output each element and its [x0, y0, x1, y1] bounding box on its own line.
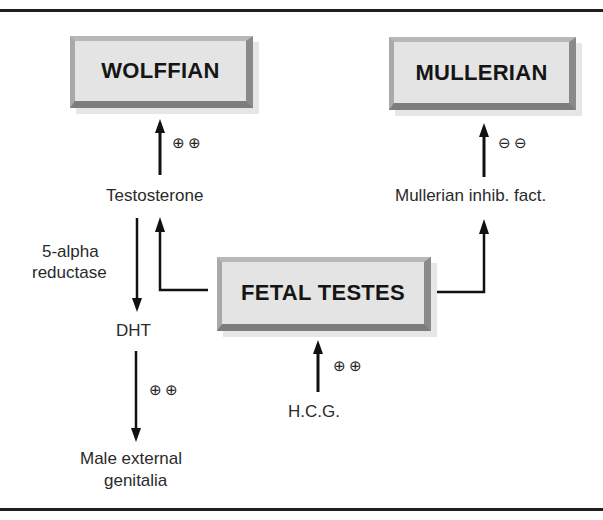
stimulate-sign-genitalia: ⊕⊕: [149, 381, 181, 399]
enzyme-label-line1: 5-alpha: [42, 241, 99, 262]
arrow-testes-to-mif: [437, 232, 484, 292]
arrowhead-mullerian: [479, 123, 489, 137]
arrowhead-genitalia: [131, 428, 141, 442]
genitalia-label-line1: Male external: [80, 448, 182, 469]
inhibit-sign-mullerian: ⊖⊖: [498, 134, 530, 152]
arrow-testes-to-testosterone: [160, 230, 208, 290]
stimulate-sign-testes: ⊕⊕: [333, 357, 365, 375]
testosterone-label: Testosterone: [106, 185, 203, 206]
enzyme-label-line2: reductase: [32, 262, 107, 283]
arrowhead-mif: [479, 219, 489, 234]
dht-label: DHT: [116, 320, 151, 341]
genitalia-label-line2: genitalia: [104, 470, 167, 491]
hcg-label: H.C.G.: [288, 401, 340, 422]
arrowhead-testes: [313, 340, 323, 354]
arrowhead-testosterone: [155, 217, 165, 232]
stimulate-sign-wolffian: ⊕⊕: [172, 134, 204, 152]
arrowhead-dht: [132, 298, 142, 312]
mullerian-factor-label: Mullerian inhib. fact.: [395, 185, 546, 206]
arrowhead-wolffian: [155, 119, 165, 133]
